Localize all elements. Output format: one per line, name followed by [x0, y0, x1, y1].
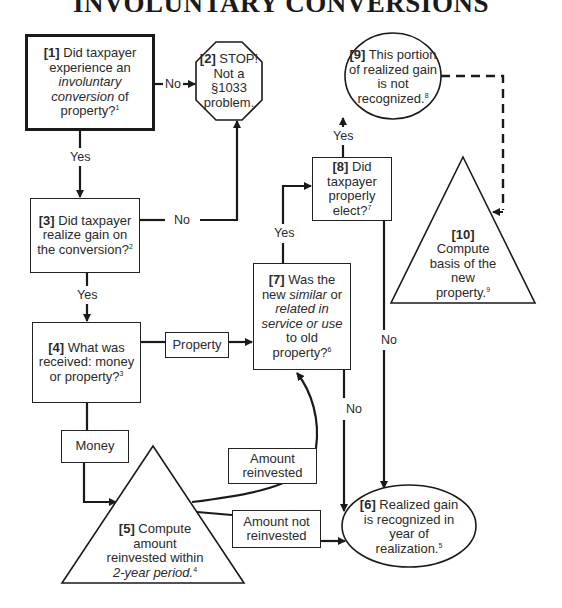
node-8-properly-elect: [8] Did taxpayer properly elect?7: [312, 157, 392, 221]
edge-label-n8-yes: Yes: [331, 129, 355, 143]
edge-label-n3-no: No: [172, 213, 192, 227]
edge-label-n7-yes: Yes: [272, 226, 296, 240]
node-9-not-recognized: [9] This portion of realized gain is not…: [345, 38, 441, 116]
node-1-involuntary-conversion: [1] Did taxpayer experience an involunta…: [25, 34, 155, 131]
node-7-similar-related: [7] Was the new similar or related in se…: [253, 263, 351, 370]
edge-label-n1-no: No: [163, 77, 183, 91]
node-4-money-or-property: [4] What was received: money or property…: [32, 322, 141, 403]
node-2-stop: [2] STOP! Not a §1033 problem.: [196, 42, 262, 120]
connector-amount-reinvested: Amount reinvested: [228, 448, 317, 484]
node-5-compute-amount: [5] Compute amount reinvested within 2-y…: [100, 520, 210, 582]
edge-label-n8-no: No: [379, 333, 399, 347]
connector-money: Money: [61, 430, 129, 463]
edge-label-n7-no: No: [344, 402, 364, 416]
edge-label-n1-yes: Yes: [68, 150, 92, 164]
node-3-realize-gain: [3] Did taxpayer realize gain on the con…: [30, 198, 140, 273]
connector-amount-not-reinvested: Amount not reinvested: [232, 510, 321, 548]
node-6-gain-recognized: [6] Realized gain is recognized in year …: [350, 494, 468, 560]
node-10-compute-basis: [10] Compute basis of the new property.9: [410, 225, 516, 303]
connector-property: Property: [165, 332, 229, 358]
edge-label-n3-yes: Yes: [75, 288, 99, 302]
